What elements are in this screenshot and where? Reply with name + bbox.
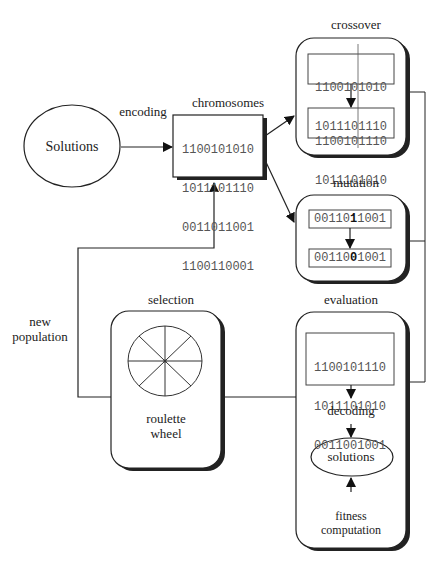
new-line: new [8, 314, 72, 329]
offspring-1: 1100101110 [308, 136, 394, 149]
selection-label: selection [136, 292, 206, 307]
fitness-line: fitness [306, 509, 396, 523]
crossover-label: crossover [316, 17, 396, 32]
mutation-before-suffix: 1001 [357, 212, 386, 226]
chromosome-2: 1011101110 [173, 183, 263, 196]
computation-line: computation [306, 523, 396, 537]
solutions-label: Solutions [24, 139, 120, 154]
mutation-after: 0011001001 [309, 252, 391, 265]
evaluation-solutions-label: solutions [311, 449, 391, 464]
chromosome-3: 0011011001 [173, 222, 263, 235]
mutation-after-prefix: 00110 [314, 251, 350, 265]
mutation-box [296, 195, 406, 281]
mutation-before: 0011011001 [309, 213, 391, 226]
to-mutation-arrow [265, 160, 294, 222]
wheel-line: wheel [126, 426, 206, 441]
decoding-label: decoding [311, 403, 391, 418]
mutation-after-suffix: 1001 [357, 251, 386, 265]
mutation-label: mutation [316, 175, 396, 190]
evaluation-strings: 1100101110 1011101010 0011001001 [306, 336, 394, 466]
encoding-label: encoding [118, 104, 168, 119]
chromosomes-label: chromosomes [188, 95, 268, 110]
mutation-before-prefix: 00110 [314, 212, 350, 226]
population-line: population [8, 329, 72, 344]
roulette-wheel-label: roulette wheel [126, 411, 206, 441]
parent-1: 1100101010 [308, 82, 394, 95]
to-crossover-arrow [265, 116, 294, 136]
evaluation-label: evaluation [311, 292, 391, 307]
new-population-label: new population [8, 314, 72, 344]
chromosome-4: 1100110001 [173, 261, 263, 274]
fitness-computation-label: fitness computation [306, 509, 396, 537]
roulette-line: roulette [126, 411, 206, 426]
eval-string-1: 1100101110 [306, 362, 394, 375]
chromosome-1: 1100101010 [173, 144, 263, 157]
chromosomes-strings: 1100101010 1011101110 0011011001 1100110… [173, 118, 263, 287]
right-connector [409, 92, 425, 382]
